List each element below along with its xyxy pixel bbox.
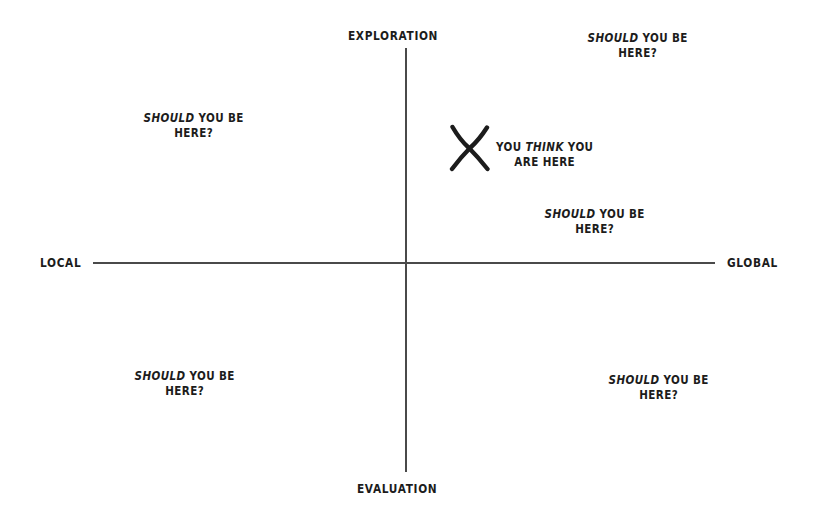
quadrant-prompt-bottom-left: SHOULD YOU BE HERE? (135, 369, 235, 399)
axis-label-global: GLOBAL (727, 256, 778, 270)
callout-line2: ARE HERE (496, 155, 593, 170)
quadrant-prompt-emphasis: SHOULD (545, 207, 596, 221)
quadrant-prompt-rest: YOU BE (195, 111, 244, 125)
axis-label-evaluation: EVALUATION (357, 482, 437, 496)
quadrant-prompt-rest: YOU BE (660, 373, 709, 387)
quadrant-prompt-emphasis: SHOULD (144, 111, 195, 125)
quadrant-prompt-top-left: SHOULD YOU BE HERE? (144, 111, 244, 141)
axis-label-local: LOCAL (40, 256, 81, 270)
position-marker-callout: YOU THINK YOU ARE HERE (496, 140, 593, 170)
quadrant-prompt-line1: SHOULD YOU BE (609, 373, 709, 388)
quadrant-prompt-rest: YOU BE (186, 369, 235, 383)
quadrant-prompt-line1: SHOULD YOU BE (135, 369, 235, 384)
callout-emphasis: THINK (526, 140, 564, 154)
quadrant-prompt-rest: YOU BE (596, 207, 645, 221)
position-marker-x-icon (448, 124, 492, 172)
quadrant-prompt-line2: HERE? (588, 46, 688, 61)
quadrant-prompt-bottom-right: SHOULD YOU BE HERE? (609, 373, 709, 403)
quadrant-prompt-emphasis: SHOULD (588, 31, 639, 45)
axis-label-exploration: EXPLORATION (348, 29, 438, 43)
quadrant-prompt-line2: HERE? (545, 222, 645, 237)
quadrant-diagram-canvas: EXPLORATION EVALUATION LOCAL GLOBAL SHOU… (0, 0, 814, 520)
quadrant-prompt-line2: HERE? (135, 384, 235, 399)
quadrant-prompt-line1: SHOULD YOU BE (144, 111, 244, 126)
quadrant-prompt-emphasis: SHOULD (135, 369, 186, 383)
quadrant-prompt-line1: SHOULD YOU BE (545, 207, 645, 222)
callout-line1-pre: YOU (496, 140, 526, 154)
quadrant-prompt-line2: HERE? (609, 388, 709, 403)
quadrant-prompt-top-right: SHOULD YOU BE HERE? (588, 31, 688, 61)
quadrant-prompt-mid-right: SHOULD YOU BE HERE? (545, 207, 645, 237)
horizontal-axis-line (93, 262, 715, 264)
quadrant-prompt-line1: SHOULD YOU BE (588, 31, 688, 46)
callout-line1: YOU THINK YOU (496, 140, 593, 155)
callout-line1-post: YOU (564, 140, 594, 154)
quadrant-prompt-rest: YOU BE (639, 31, 688, 45)
quadrant-prompt-emphasis: SHOULD (609, 373, 660, 387)
vertical-axis-line (405, 48, 407, 472)
quadrant-prompt-line2: HERE? (144, 126, 244, 141)
